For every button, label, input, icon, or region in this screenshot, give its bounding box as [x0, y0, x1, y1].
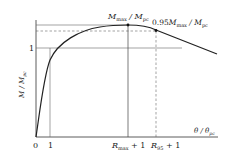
x-axis-label: θ / θpc — [194, 127, 215, 136]
moment-rotation-chart: 1 0 1 Rmax + 1 R95 + 1 Mmax / Mpc 0.95Mm… — [0, 0, 231, 160]
m95-point — [155, 29, 158, 32]
mmax-point — [127, 24, 130, 27]
y-tick-one: 1 — [29, 44, 34, 53]
moment-rotation-curve — [36, 25, 217, 137]
mmax-annotation: Mmax / Mpc — [107, 12, 149, 23]
x-tick-origin: 0 — [33, 141, 38, 150]
y-axis-label: M / Mpc — [18, 71, 27, 99]
x-tick-one: 1 — [48, 141, 53, 150]
x-tick-r95: R95 + 1 — [150, 141, 180, 151]
m95-annotation: 0.95Mmax / Mpc — [152, 18, 208, 29]
x-tick-rmax: Rmax + 1 — [111, 141, 145, 151]
